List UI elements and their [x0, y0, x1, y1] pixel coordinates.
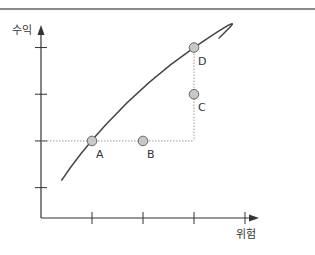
y-axis-arrow: [38, 25, 45, 35]
y-axis-label: 수익: [12, 24, 32, 37]
point-a: [87, 136, 97, 146]
x-axis-arrow: [249, 215, 259, 222]
point-d: [189, 43, 199, 53]
risk-return-chart: ABCD 수익 위험: [0, 0, 315, 255]
point-label-c: C: [198, 101, 206, 114]
point-label-b: B: [147, 148, 155, 161]
x-axis-label: 위험: [236, 228, 256, 241]
point-label-a: A: [96, 148, 104, 161]
point-b: [138, 136, 148, 146]
point-c: [189, 89, 199, 99]
point-label-d: D: [198, 55, 206, 68]
